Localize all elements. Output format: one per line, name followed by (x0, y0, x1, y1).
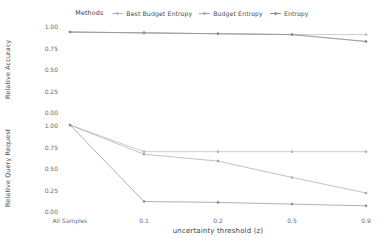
series-data-point (365, 192, 368, 195)
x-axis-tick-label: 0.1 (139, 217, 149, 224)
y-axis-tick-label: 0.75 (32, 44, 58, 51)
y-axis-tick-label: 0.25 (32, 87, 58, 94)
plot-area-query (62, 125, 374, 211)
y-axis-tick-label: 0.50 (32, 66, 58, 73)
plot-area-accuracy (62, 26, 374, 112)
y-axis-ticks-accuracy: 1.000.750.500.250.00 (28, 26, 58, 112)
series-data-point (291, 33, 294, 36)
series-data-point (69, 124, 72, 127)
x-axis-tick-label: 0.5 (287, 217, 297, 224)
y-axis-tick-label: 0.25 (32, 186, 58, 193)
legend-title: Methods (75, 9, 103, 17)
x-axis-title: uncertainty threshold (z) (62, 227, 374, 235)
y-axis-ticks-query: 1.000.750.500.250.00 (28, 125, 58, 211)
y-axis-title-accuracy: Relative Accuracy (4, 26, 12, 112)
series-data-point (217, 201, 220, 204)
legend-line-marker-icon (112, 10, 123, 17)
panel-relative-accuracy (62, 26, 374, 112)
legend-entry[interactable]: Budget Entropy (199, 10, 263, 17)
y-axis-tick-label: 0.00 (32, 109, 58, 116)
series-data-point (143, 150, 146, 153)
y-axis-tick-label: 0.50 (32, 165, 58, 172)
y-axis-title-query: Relative Query Request (4, 125, 12, 211)
series-data-point (291, 150, 294, 153)
series-line (70, 125, 366, 193)
series-data-point (143, 200, 146, 203)
series-line (70, 125, 366, 152)
series-data-point (143, 153, 146, 156)
series-data-point (365, 33, 368, 36)
series-data-point (291, 203, 294, 206)
series-data-point (217, 160, 220, 163)
series-data-point (365, 205, 368, 208)
legend-entry[interactable]: Best Budget Entropy (112, 10, 192, 17)
legend-line-marker-icon (270, 10, 281, 17)
legend-label: Budget Entropy (213, 10, 263, 17)
series-data-point (69, 31, 72, 34)
legend-line-marker-icon (199, 10, 210, 17)
series-data-point (217, 150, 220, 153)
y-axis-tick-label: 1.00 (32, 23, 58, 30)
legend-label: Entropy (284, 10, 309, 17)
series-data-point (365, 40, 368, 43)
x-axis-tick-label: 0.2 (213, 217, 223, 224)
x-axis-tick-label: 0.9 (361, 217, 371, 224)
series-data-point (143, 32, 146, 35)
series-data-point (217, 32, 220, 35)
y-axis-tick-label: 0.00 (32, 208, 58, 215)
series-data-point (365, 150, 368, 153)
chart-legend: Methods Best Budget EntropyBudget Entrop… (0, 6, 384, 20)
legend-entry[interactable]: Entropy (270, 10, 309, 17)
legend-label: Best Budget Entropy (126, 10, 192, 17)
series-data-point (291, 176, 294, 179)
y-axis-tick-label: 1.00 (32, 122, 58, 129)
chart-figure: Methods Best Budget EntropyBudget Entrop… (0, 0, 384, 250)
x-axis-tick-label: All Samples (53, 217, 88, 224)
panel-relative-query-request (62, 125, 374, 211)
series-line (70, 125, 366, 206)
y-axis-tick-label: 0.75 (32, 143, 58, 150)
x-axis-ticks: All Samples0.10.20.50.9 (62, 217, 374, 227)
